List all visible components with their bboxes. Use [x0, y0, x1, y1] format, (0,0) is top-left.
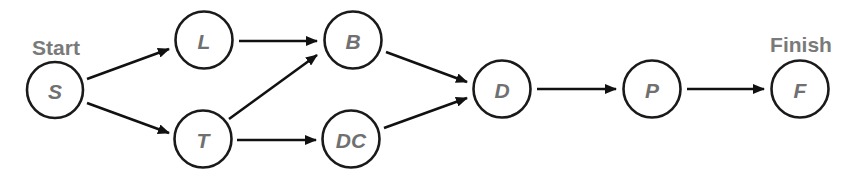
node-l: L: [176, 12, 233, 69]
edge-s-to-l: [87, 49, 169, 79]
node-t: T: [175, 111, 232, 168]
node-p: P: [624, 61, 681, 118]
finish-caption: Finish: [770, 33, 832, 56]
node-p-label: P: [645, 79, 660, 102]
node-b-label: B: [345, 30, 360, 53]
node-dc-label: DC: [336, 129, 367, 152]
start-caption: Start: [32, 36, 80, 59]
edge-dc-to-d: [384, 98, 467, 128]
node-d: D: [474, 61, 531, 118]
node-b: B: [325, 12, 382, 69]
node-f-label: F: [794, 79, 808, 102]
edge-s-to-t: [87, 103, 169, 133]
node-s: S: [27, 62, 83, 118]
node-dc: DC: [323, 111, 380, 168]
edge-t-to-b: [229, 55, 317, 119]
node-d-label: D: [494, 79, 509, 102]
edge-b-to-d: [386, 52, 467, 82]
network-diagram: Start Finish S L T B DC D P: [0, 0, 863, 176]
node-t-label: T: [197, 129, 212, 152]
node-s-label: S: [48, 80, 62, 103]
node-f: F: [772, 61, 829, 118]
node-l-label: L: [198, 30, 211, 53]
